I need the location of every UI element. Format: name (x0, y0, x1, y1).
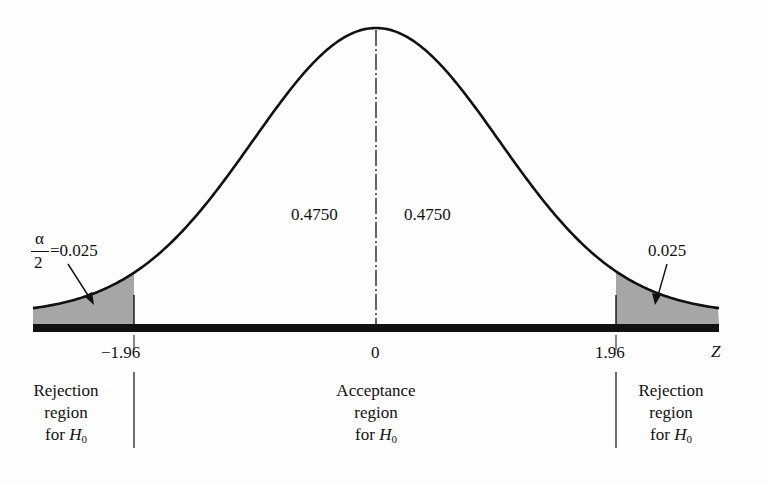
fraction-bar (31, 251, 49, 252)
region-line3: for H0 (316, 424, 436, 450)
region-line2: region (26, 402, 106, 424)
for-text: for (45, 425, 69, 444)
region-line1: Rejection (631, 380, 711, 402)
for-text: for (355, 425, 379, 444)
alpha-symbol: α (35, 229, 44, 249)
for-text: for (650, 425, 674, 444)
tick-label-neg-1.96: −1.96 (101, 343, 140, 363)
tick-label-1.96: 1.96 (595, 343, 625, 363)
right-rejection-region-label: Rejection region for H0 (631, 380, 711, 450)
region-line1: Rejection (26, 380, 106, 402)
h-subscript: 0 (686, 433, 692, 445)
region-line2: region (631, 402, 711, 424)
region-line1: Acceptance (316, 380, 436, 402)
region-line3: for H0 (631, 424, 711, 450)
left-tail-value: =0.025 (50, 241, 98, 261)
h-symbol: H (674, 425, 686, 444)
axis-variable-z: Z (711, 342, 720, 362)
h-subscript: 0 (81, 433, 87, 445)
tick-label-zero: 0 (371, 343, 380, 363)
z-label: Z (711, 342, 720, 361)
region-line3: for H0 (26, 424, 106, 450)
h-symbol: H (69, 425, 81, 444)
h-subscript: 0 (391, 433, 397, 445)
left-rejection-region-label: Rejection region for H0 (26, 380, 106, 450)
region-line2: region (316, 402, 436, 424)
z-axis-bar (33, 324, 719, 332)
denominator: 2 (34, 253, 43, 273)
acceptance-region-label: Acceptance region for H0 (316, 380, 436, 450)
center-left-area-label: 0.4750 (291, 205, 338, 225)
center-right-area-label: 0.4750 (404, 205, 451, 225)
h-symbol: H (379, 425, 391, 444)
right-tail-label: 0.025 (648, 241, 686, 261)
